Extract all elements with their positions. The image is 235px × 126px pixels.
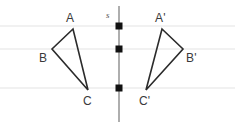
vertex-label-a-prime: A' — [155, 12, 166, 24]
vertex-label-a: A — [66, 12, 74, 24]
vertex-label-b-prime: B' — [186, 52, 197, 64]
vertex-label-c: C — [83, 95, 92, 107]
triangle-a-prime-b-prime-c-prime — [146, 29, 183, 90]
reflection-diagram: s A B C A' B' C' — [0, 0, 235, 126]
intersection-square-1 — [116, 46, 123, 53]
grid-lines — [0, 26, 235, 88]
mirror-line-label-s: s — [106, 11, 110, 20]
intersection-square-2 — [116, 85, 123, 92]
diagram-canvas — [0, 0, 235, 126]
vertex-label-b: B — [39, 52, 47, 64]
triangle-abc — [52, 29, 88, 90]
vertex-label-c-prime: C' — [139, 95, 150, 107]
intersection-square-0 — [116, 23, 123, 30]
